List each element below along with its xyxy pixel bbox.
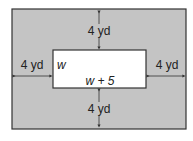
border-diagram: 4 yd 4 yd 4 yd 4 yd w w + 5 [0,0,193,141]
bottom-label: 4 yd [88,102,111,116]
top-label: 4 yd [88,24,111,38]
length-label: w + 5 [85,74,114,88]
left-label: 4 yd [21,58,44,72]
width-label: w [57,58,67,72]
right-label: 4 yd [156,58,179,72]
